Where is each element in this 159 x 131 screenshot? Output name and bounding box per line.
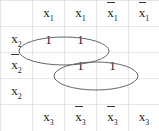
grouping-loops: [0, 0, 159, 131]
group-loop-1: [19, 37, 109, 65]
group-loop-2: [54, 62, 138, 90]
